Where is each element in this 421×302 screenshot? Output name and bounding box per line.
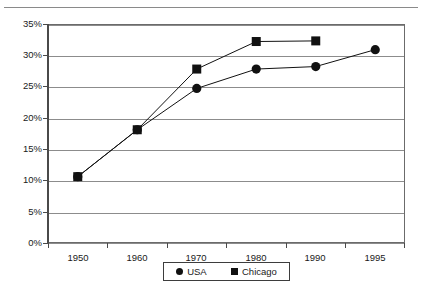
data-point-chicago-1960 bbox=[133, 125, 142, 134]
data-point-usa-1995 bbox=[371, 45, 380, 54]
chart-page: 35% 30% 25% 20% 15% 10% 5% 0% 1950 1960 … bbox=[0, 0, 421, 302]
circle-marker-icon bbox=[176, 268, 183, 275]
data-point-chicago-1970 bbox=[192, 65, 201, 74]
line-chart: 35% 30% 25% 20% 15% 10% 5% 0% 1950 1960 … bbox=[0, 14, 421, 302]
legend-label-chicago: Chicago bbox=[242, 267, 277, 277]
series-line-usa bbox=[197, 69, 257, 88]
series-line-chicago bbox=[137, 69, 197, 130]
series-line-usa bbox=[316, 50, 376, 67]
legend-label-usa: USA bbox=[187, 267, 207, 277]
series-line-chicago bbox=[78, 130, 138, 177]
legend-item-chicago: Chicago bbox=[231, 267, 277, 277]
data-point-usa-1970 bbox=[192, 84, 201, 93]
data-point-chicago-1990 bbox=[311, 36, 320, 45]
series-line-usa bbox=[137, 88, 197, 129]
series-line-usa bbox=[256, 67, 316, 70]
data-point-chicago-1980 bbox=[252, 37, 261, 46]
page-top-rule bbox=[4, 7, 418, 8]
data-point-chicago-1950 bbox=[73, 172, 82, 181]
series-line-chicago bbox=[256, 41, 316, 42]
data-point-usa-1990 bbox=[311, 62, 320, 71]
legend-item-usa: USA bbox=[176, 267, 207, 277]
square-marker-icon bbox=[231, 268, 238, 275]
chart-legend: USA Chicago bbox=[163, 262, 290, 281]
series-layer bbox=[0, 14, 421, 302]
series-line-chicago bbox=[197, 42, 257, 70]
data-point-usa-1980 bbox=[252, 64, 261, 73]
